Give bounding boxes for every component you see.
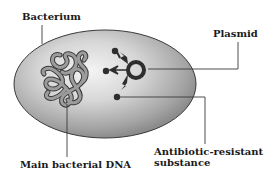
plasmid-label: Plasmid	[213, 28, 258, 39]
main-dna-label: Main bacterial DNA	[20, 159, 131, 170]
bacterium-cell	[14, 30, 196, 138]
antibiotic-label-line2: substance	[154, 157, 210, 168]
antibiotic-label-line1: Antibiotic-resistant	[154, 146, 263, 157]
bacterium-label: Bacterium	[22, 11, 81, 22]
